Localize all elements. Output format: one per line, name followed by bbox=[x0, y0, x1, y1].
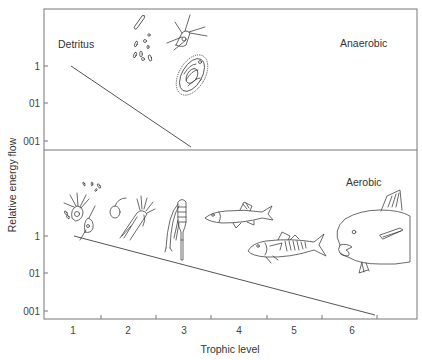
detritus-label: Detritus bbox=[58, 38, 94, 50]
anaerobic-trend-line bbox=[71, 66, 191, 147]
aerobic-trend-line bbox=[74, 236, 375, 315]
x-ticks: 1 2 3 4 5 6 bbox=[70, 315, 377, 336]
ciliate-icon bbox=[170, 49, 215, 100]
detritus-particles-icon bbox=[133, 15, 152, 62]
x-tick-label: 4 bbox=[236, 325, 242, 336]
grouper-icon bbox=[337, 190, 410, 273]
y-tick-label: 001 bbox=[23, 136, 40, 147]
copepod-icon bbox=[165, 200, 186, 261]
y-tick-label: 01 bbox=[29, 268, 41, 279]
x-tick-label: 5 bbox=[291, 325, 297, 336]
x-tick-label: 2 bbox=[125, 325, 131, 336]
y-tick-label: 01 bbox=[29, 98, 41, 109]
anaerobic-label: Anaerobic bbox=[340, 37, 387, 49]
trophic-energy-chart: 1 01 001 1 01 001 1 2 3 4 5 6 Trophic le… bbox=[0, 0, 422, 360]
x-tick-label: 3 bbox=[181, 325, 187, 336]
y-tick-label: 001 bbox=[23, 306, 40, 317]
small-fish-icon bbox=[205, 202, 273, 228]
small-ciliate-icon bbox=[110, 198, 126, 218]
rotifer-icon bbox=[120, 196, 155, 240]
x-axis-title: Trophic level bbox=[200, 343, 259, 355]
x-tick-label: 6 bbox=[349, 325, 355, 336]
flagellate-icon bbox=[167, 15, 207, 50]
x-tick-label: 1 bbox=[70, 325, 76, 336]
aerobic-label: Aerobic bbox=[346, 176, 382, 188]
y-tick-label: 1 bbox=[34, 231, 40, 242]
mackerel-icon bbox=[248, 232, 326, 263]
y-axis-title: Relative energy flow bbox=[6, 137, 18, 232]
y-tick-label: 1 bbox=[34, 61, 40, 72]
